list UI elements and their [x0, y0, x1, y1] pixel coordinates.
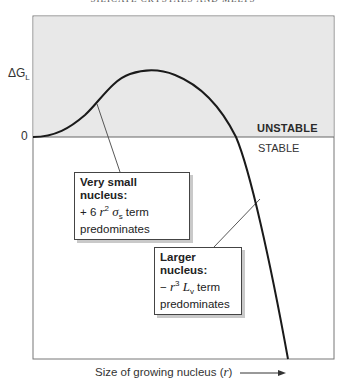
arrow-right-icon [240, 369, 286, 377]
unstable-region [34, 17, 334, 138]
unstable-label: UNSTABLE [257, 122, 318, 134]
callout-term: + 6 r2 σs term [80, 202, 184, 223]
callout-desc: predominates [160, 298, 236, 311]
callout-desc: predominates [80, 223, 184, 236]
callout-title: Very small nucleus: [80, 176, 184, 202]
callout-larger-nucleus: Larger nucleus: − r3 Lv term predominate… [154, 247, 242, 315]
callout-title: Larger nucleus: [160, 251, 236, 277]
callout-small-nucleus: Very small nucleus: + 6 r2 σs term predo… [74, 172, 190, 240]
x-axis-label: Size of growing nucleus (r) [95, 364, 286, 380]
y-axis-label: ΔGL [8, 66, 30, 82]
stable-label: STABLE [258, 142, 299, 154]
callout-term: − r3 Lv term [160, 277, 236, 298]
zero-tick-label: 0 [21, 129, 28, 143]
